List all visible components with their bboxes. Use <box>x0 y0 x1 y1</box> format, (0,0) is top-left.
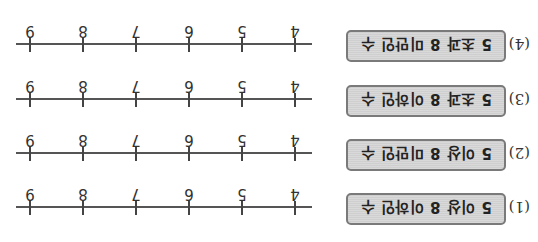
tick-5 <box>242 201 244 215</box>
worksheet: (1) 5 이상 8 이하인 수 4 5 6 7 8 9 (2) 5 이상 8 … <box>0 0 538 242</box>
tick-label: 6 <box>179 22 199 40</box>
tick-9 <box>30 147 32 161</box>
tick-7 <box>136 38 138 52</box>
number-line-axis <box>16 153 312 155</box>
condition-box: 5 초과 8 미만인 수 <box>346 30 506 62</box>
tick-5 <box>242 147 244 161</box>
tick-label: 8 <box>73 185 93 203</box>
tick-4 <box>295 93 297 107</box>
tick-label: 6 <box>179 77 199 95</box>
tick-label: 4 <box>285 185 305 203</box>
tick-7 <box>136 93 138 107</box>
tick-6 <box>189 38 191 52</box>
tick-5 <box>242 38 244 52</box>
problem-row-3: (3) 5 초과 8 이하인 수 4 5 6 7 8 9 <box>0 68 538 122</box>
tick-4 <box>295 38 297 52</box>
number-line[interactable]: 4 5 6 7 8 9 <box>16 13 312 67</box>
tick-9 <box>30 93 32 107</box>
tick-7 <box>136 201 138 215</box>
tick-label: 5 <box>232 131 252 149</box>
number-line-axis <box>16 99 312 101</box>
problem-row-4: (4) 5 초과 8 미만인 수 4 5 6 7 8 9 <box>0 13 538 67</box>
problem-number: (2) <box>509 144 530 162</box>
tick-label: 6 <box>179 185 199 203</box>
problem-row-1: (1) 5 이상 8 이하인 수 4 5 6 7 8 9 <box>0 176 538 230</box>
condition-box: 5 초과 8 이하인 수 <box>346 85 506 117</box>
tick-label: 7 <box>126 77 146 95</box>
problem-row-2: (2) 5 이상 8 미만인 수 4 5 6 7 8 9 <box>0 122 538 176</box>
problem-number: (1) <box>509 198 530 216</box>
number-line[interactable]: 4 5 6 7 8 9 <box>16 68 312 122</box>
tick-label: 7 <box>126 22 146 40</box>
tick-8 <box>83 38 85 52</box>
condition-box: 5 이상 8 미만인 수 <box>346 139 506 171</box>
tick-label: 9 <box>20 131 40 149</box>
tick-label: 7 <box>126 185 146 203</box>
tick-6 <box>189 93 191 107</box>
number-line-axis <box>16 207 312 209</box>
tick-4 <box>295 147 297 161</box>
tick-6 <box>189 201 191 215</box>
number-line-axis <box>16 44 312 46</box>
tick-label: 4 <box>285 22 305 40</box>
tick-label: 4 <box>285 77 305 95</box>
tick-5 <box>242 93 244 107</box>
tick-label: 8 <box>73 22 93 40</box>
tick-6 <box>189 147 191 161</box>
tick-7 <box>136 147 138 161</box>
tick-label: 5 <box>232 77 252 95</box>
tick-8 <box>83 201 85 215</box>
number-line[interactable]: 4 5 6 7 8 9 <box>16 176 312 230</box>
tick-label: 7 <box>126 131 146 149</box>
tick-label: 8 <box>73 77 93 95</box>
problem-number: (3) <box>509 90 530 108</box>
tick-8 <box>83 93 85 107</box>
tick-label: 9 <box>20 77 40 95</box>
tick-4 <box>295 201 297 215</box>
tick-label: 9 <box>20 185 40 203</box>
number-line[interactable]: 4 5 6 7 8 9 <box>16 122 312 176</box>
tick-8 <box>83 147 85 161</box>
tick-label: 5 <box>232 185 252 203</box>
problem-number: (4) <box>509 35 530 53</box>
tick-label: 6 <box>179 131 199 149</box>
tick-label: 4 <box>285 131 305 149</box>
tick-9 <box>30 201 32 215</box>
tick-label: 9 <box>20 22 40 40</box>
tick-label: 8 <box>73 131 93 149</box>
tick-label: 5 <box>232 22 252 40</box>
tick-9 <box>30 38 32 52</box>
condition-box: 5 이상 8 이하인 수 <box>346 193 506 225</box>
